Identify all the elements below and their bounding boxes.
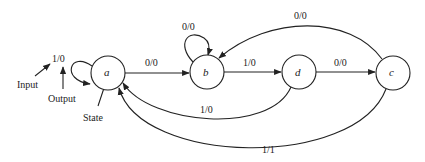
- transition-c-a: [119, 88, 386, 148]
- legend-transition-label: 1/0: [52, 53, 65, 64]
- state-c-label: c: [389, 66, 394, 78]
- transition-c-b-label: 0/0: [294, 10, 307, 21]
- transition-c-a-label: 1/1: [262, 144, 275, 155]
- legend-state-label: State: [83, 112, 104, 123]
- transition-b-d-label: 1/0: [243, 57, 256, 68]
- state-d: d: [282, 55, 316, 89]
- legend-input-label: Input: [17, 79, 38, 90]
- state-a-label: a: [104, 66, 110, 78]
- transition-a-b-label: 0/0: [145, 57, 158, 68]
- legend: 1/0 Input Output State: [17, 53, 106, 123]
- transition-d-a-label: 1/0: [200, 104, 213, 115]
- state-diagram: 1/0 Input Output State 0/0 0/0 1/0 0/0 0…: [0, 0, 425, 162]
- transition-c-b: [219, 26, 382, 59]
- transition-d-c-label: 0/0: [334, 57, 347, 68]
- transition-b-b-label: 0/0: [182, 21, 195, 32]
- state-d-label: d: [295, 66, 301, 78]
- state-b-label: b: [203, 66, 209, 78]
- transition-a-a: [71, 61, 92, 84]
- legend-output-label: Output: [48, 93, 76, 104]
- state-b: b: [190, 55, 224, 89]
- state-a: a: [91, 56, 125, 90]
- input-pointer-arrow: [35, 64, 50, 76]
- state-c: c: [376, 56, 410, 90]
